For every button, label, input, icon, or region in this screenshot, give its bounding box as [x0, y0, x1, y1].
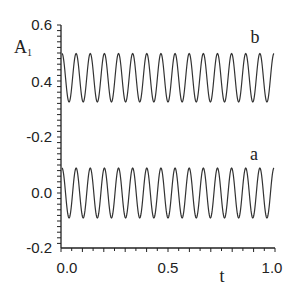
x-tick-label: 0.0	[57, 259, 78, 276]
curve-a-label: a	[250, 144, 258, 164]
curve-b-label: b	[251, 27, 260, 47]
curve-b	[62, 54, 274, 102]
y-tick-label: 0.4	[31, 73, 52, 90]
curve-a	[62, 168, 274, 218]
x-tick-label: 0.5	[158, 259, 179, 276]
y-axis-title-subscript: 1	[27, 47, 32, 58]
x-axis-title: t	[219, 266, 224, 286]
y-tick-label: 0.6	[31, 16, 52, 33]
line-chart: 0.6 0.4 -0.2 0.0 -0.2 0.0 0.5 1.0 t A1 b…	[0, 0, 300, 298]
y-tick-label: -0.2	[26, 128, 52, 145]
y-tick-label: -0.2	[26, 239, 52, 256]
y-axis-title: A1	[14, 37, 32, 58]
x-tick-label: 1.0	[262, 259, 283, 276]
y-axis-title-main: A	[14, 37, 27, 57]
x-axis-ticks	[61, 248, 275, 252]
y-tick-label: 0.0	[31, 184, 52, 201]
